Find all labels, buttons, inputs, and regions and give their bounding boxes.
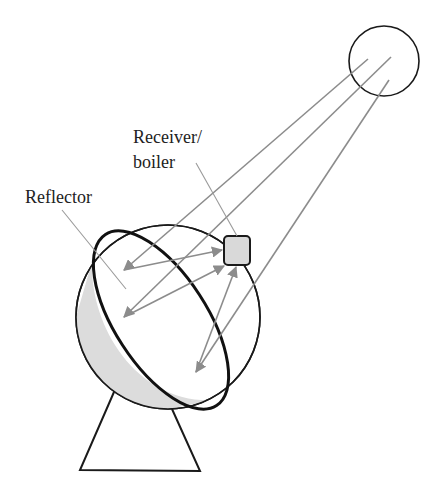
- receiver-label-line1: Receiver/: [133, 127, 202, 147]
- reflector-label: Reflector: [25, 187, 92, 207]
- receiver-leader-line: [196, 163, 237, 236]
- diagram-canvas: Receiver/ boiler Reflector: [0, 0, 443, 500]
- solar-dish-diagram: Receiver/ boiler Reflector: [0, 0, 443, 500]
- receiver-label-line2: boiler: [133, 152, 175, 172]
- sun-circle: [349, 26, 419, 96]
- receiver-box: [224, 236, 250, 265]
